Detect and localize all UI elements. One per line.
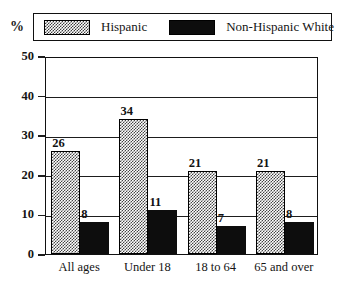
x-axis-category-label: Under 18 — [113, 260, 181, 275]
bar-value-label: 21 — [257, 156, 270, 171]
y-axis-tick-mark — [38, 96, 45, 98]
y-axis-tick-label: 50 — [12, 49, 34, 64]
legend-item-hispanic: Hispanic — [44, 19, 147, 35]
legend-label-hispanic: Hispanic — [101, 19, 147, 35]
bar-value-label: 8 — [81, 207, 87, 222]
bar-hispanic — [51, 151, 80, 254]
bar-series-container — [46, 58, 317, 254]
legend-label-non-hispanic-white: Non-Hispanic White — [226, 19, 334, 35]
plot-area — [45, 57, 318, 255]
bar-non-hispanic-white — [285, 222, 314, 254]
y-axis-tick-label: 30 — [12, 128, 34, 143]
bar-value-label: 26 — [52, 136, 65, 151]
y-axis-tick-mark — [38, 254, 45, 256]
bar-non-hispanic-white — [80, 222, 109, 254]
chart-legend: Hispanic Non-Hispanic White — [33, 13, 332, 41]
bar-value-label: 7 — [218, 211, 224, 226]
bar-value-label: 34 — [120, 104, 133, 119]
y-axis-tick-label: 40 — [12, 89, 34, 104]
legend-item-non-hispanic-white: Non-Hispanic White — [169, 19, 334, 35]
y-axis-tick-mark — [38, 175, 45, 177]
bar-hispanic — [256, 171, 285, 254]
solid-black-swatch-icon — [169, 20, 215, 35]
bar-non-hispanic-white — [217, 226, 246, 254]
bar-non-hispanic-white — [148, 210, 177, 254]
y-axis-tick-label: 20 — [12, 168, 34, 183]
y-axis-tick-mark — [38, 135, 45, 137]
x-axis-category-label: 18 to 64 — [182, 260, 250, 275]
bar-hispanic — [188, 171, 217, 254]
x-axis-category-label: All ages — [45, 260, 113, 275]
x-axis-category-label: 65 and over — [250, 260, 318, 275]
y-axis-tick-mark — [38, 215, 45, 217]
bar-hispanic — [119, 119, 148, 254]
percent-axis-symbol: % — [10, 19, 24, 35]
bar-value-label: 8 — [286, 207, 292, 222]
y-axis-tick-label: 0 — [12, 247, 34, 262]
dotted-gray-swatch-icon — [44, 20, 90, 35]
bar-value-label: 21 — [189, 156, 202, 171]
y-axis-tick-mark — [38, 56, 45, 58]
chart-root: % Hispanic Non-Hispanic White All agesUn… — [0, 0, 338, 291]
y-axis-tick-label: 10 — [12, 207, 34, 222]
bar-value-label: 11 — [149, 195, 161, 210]
